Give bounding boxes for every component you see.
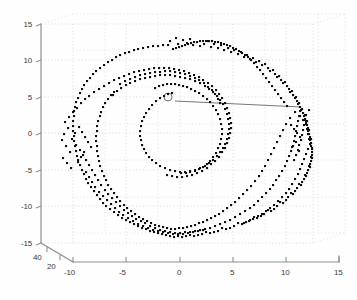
scatter-point bbox=[294, 135, 296, 137]
scatter-point bbox=[148, 156, 150, 158]
scatter-point bbox=[302, 119, 304, 121]
scatter-point bbox=[208, 88, 210, 90]
scatter-point bbox=[178, 69, 180, 71]
scatter-point bbox=[177, 233, 179, 235]
scatter-point bbox=[203, 82, 205, 84]
scatter-point bbox=[256, 217, 258, 219]
scatter-point bbox=[296, 100, 298, 102]
scatter-point bbox=[162, 226, 164, 228]
scatter-point bbox=[294, 178, 296, 180]
scatter-point bbox=[91, 181, 93, 183]
scatter-point bbox=[226, 142, 228, 144]
scatter-point bbox=[119, 83, 121, 85]
scatter-point bbox=[105, 179, 107, 181]
scatter-point bbox=[98, 88, 100, 90]
scatter-point bbox=[281, 196, 283, 198]
scatter-point bbox=[110, 188, 112, 190]
y-tick-label: 0 bbox=[14, 129, 32, 138]
scatter-point bbox=[67, 127, 69, 129]
scatter-point bbox=[310, 138, 312, 140]
scatter-point bbox=[202, 221, 204, 223]
scatter-point bbox=[138, 216, 140, 218]
scatter-point bbox=[210, 163, 212, 165]
scatter-point bbox=[169, 40, 171, 42]
scatter-point bbox=[112, 94, 114, 96]
x-tick-label: 15 bbox=[334, 268, 343, 277]
scatter-point bbox=[282, 129, 284, 131]
scatter-point bbox=[84, 98, 86, 100]
scatter-point bbox=[204, 228, 206, 230]
scatter-point bbox=[170, 83, 172, 85]
scatter-point bbox=[106, 199, 108, 201]
scatter-point bbox=[111, 59, 113, 61]
scatter-point bbox=[90, 186, 92, 188]
scatter-point bbox=[133, 223, 135, 225]
scatter-point bbox=[97, 155, 99, 157]
y-tick-label: -10 bbox=[12, 202, 32, 211]
scatter-point bbox=[167, 44, 169, 46]
scatter-point bbox=[120, 87, 122, 89]
scatter-point bbox=[159, 74, 161, 76]
scatter-point bbox=[298, 102, 300, 104]
scatter-point bbox=[214, 93, 216, 95]
scatter-point bbox=[192, 231, 194, 233]
scatter-point bbox=[259, 69, 261, 71]
scatter-point bbox=[79, 164, 81, 166]
scatter-point bbox=[204, 165, 206, 167]
scatter-point bbox=[307, 169, 309, 171]
scatter-point bbox=[134, 213, 136, 215]
scatter-point bbox=[72, 125, 74, 127]
scatter-point bbox=[99, 198, 101, 200]
scatter-point bbox=[159, 165, 161, 167]
scatter-point bbox=[169, 169, 171, 171]
scatter-point bbox=[141, 120, 143, 122]
x-tick-label: -10 bbox=[64, 268, 75, 277]
scatter-point bbox=[280, 97, 282, 99]
scatter-point bbox=[209, 101, 211, 103]
scatter-point bbox=[297, 120, 299, 122]
scatter-point bbox=[230, 51, 232, 53]
scatter-point bbox=[199, 40, 201, 42]
scatter-point bbox=[174, 232, 176, 234]
scatter-point bbox=[229, 227, 231, 229]
scatter-point bbox=[199, 45, 201, 47]
scatter-point bbox=[141, 227, 143, 229]
scatter-point bbox=[248, 220, 250, 222]
scatter-point bbox=[219, 118, 221, 120]
scatter-point bbox=[196, 172, 198, 174]
scatter-point bbox=[267, 67, 269, 69]
scatter-point bbox=[220, 138, 222, 140]
scatter-point bbox=[279, 135, 281, 137]
connector-line bbox=[175, 101, 301, 107]
scatter-point bbox=[158, 85, 160, 87]
scatter-point bbox=[181, 236, 183, 238]
scatter-point bbox=[103, 64, 105, 66]
scatter-point bbox=[243, 56, 245, 58]
scatter-point bbox=[279, 201, 281, 203]
scatter-point bbox=[303, 124, 305, 126]
scatter-point bbox=[290, 192, 292, 194]
scatter-point bbox=[83, 173, 85, 175]
scatter-point bbox=[98, 191, 100, 193]
scatter-point bbox=[122, 214, 124, 216]
scatter-point bbox=[211, 85, 213, 87]
scatter-point bbox=[290, 150, 292, 152]
scatter-point bbox=[218, 156, 220, 158]
scatter-point bbox=[224, 147, 226, 149]
y-tick-label: -15 bbox=[12, 239, 32, 248]
scatter-point bbox=[221, 227, 223, 229]
x-axis-ticks bbox=[73, 257, 339, 262]
scatter-point bbox=[285, 123, 287, 125]
scatter-point bbox=[308, 138, 310, 140]
scatter-point bbox=[230, 122, 232, 124]
scatter-point bbox=[95, 70, 97, 72]
grid-back-plane bbox=[73, 14, 345, 233]
scatter-point bbox=[154, 75, 156, 77]
scatter-point bbox=[147, 227, 149, 229]
scatter-point bbox=[292, 145, 294, 147]
scatter-point bbox=[129, 221, 131, 223]
z-tick-label: 20 bbox=[47, 262, 56, 271]
scatter-point bbox=[144, 73, 146, 75]
x-tick-label: 0 bbox=[177, 268, 181, 277]
scatter-point bbox=[306, 120, 308, 122]
